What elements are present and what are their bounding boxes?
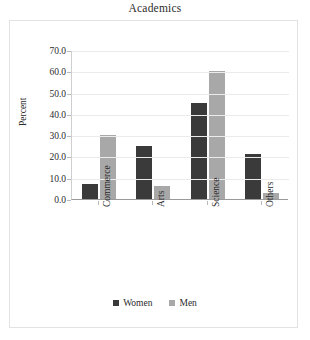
y-tick-label: 20.0 xyxy=(20,152,66,162)
legend-item[interactable]: Men xyxy=(169,298,196,308)
legend-swatch-icon xyxy=(113,300,119,306)
x-category-label: Arts xyxy=(156,191,166,207)
y-tick-label: 0.0 xyxy=(20,195,66,205)
page-title: Academics xyxy=(0,2,310,14)
gridline xyxy=(72,115,289,116)
legend-label: Men xyxy=(179,298,196,308)
x-tick-mark xyxy=(98,201,99,205)
y-tick-label: 70.0 xyxy=(20,46,66,56)
x-tick-mark xyxy=(152,201,153,205)
y-tick-label: 30.0 xyxy=(20,131,66,141)
y-tick-label: 60.0 xyxy=(20,67,66,77)
bar xyxy=(136,146,152,199)
gridline xyxy=(72,72,289,73)
y-tick-label: 40.0 xyxy=(20,110,66,120)
chart-figure: Academics Percent 70.060.050.040.030.020… xyxy=(0,0,310,340)
bar xyxy=(191,103,207,199)
gridline xyxy=(72,51,289,52)
x-category-label: Others xyxy=(265,182,275,207)
gridline xyxy=(72,157,289,158)
y-tick-label: 10.0 xyxy=(20,174,66,184)
legend-item[interactable]: Women xyxy=(113,298,152,308)
x-tick-mark xyxy=(207,201,208,205)
bar xyxy=(82,184,98,199)
chart-legend: WomenMen xyxy=(0,298,310,308)
x-category-label: Science xyxy=(211,177,221,207)
bar xyxy=(245,154,261,199)
gridline xyxy=(72,136,289,137)
x-tick-mark xyxy=(261,201,262,205)
legend-swatch-icon xyxy=(169,300,175,306)
y-tick-label: 50.0 xyxy=(20,89,66,99)
legend-label: Women xyxy=(123,298,152,308)
gridline xyxy=(72,94,289,95)
y-tick-mark xyxy=(67,200,71,201)
x-category-label: Commerce xyxy=(102,165,112,207)
